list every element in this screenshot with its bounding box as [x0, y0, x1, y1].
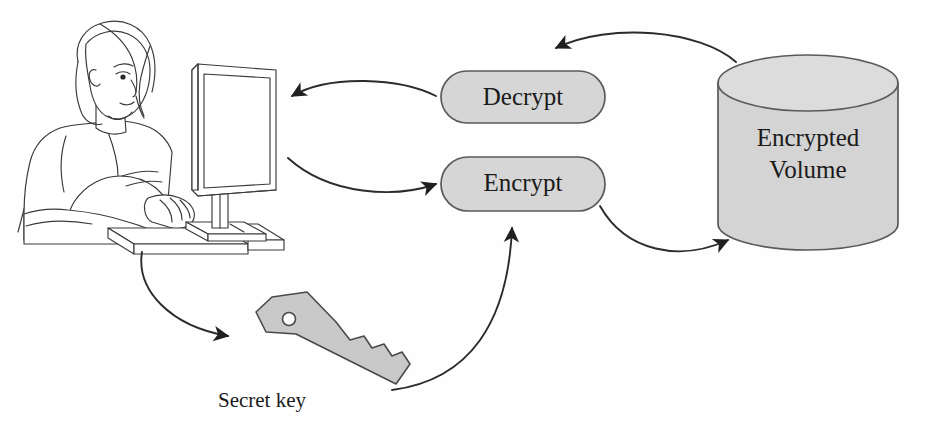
diagram-canvas: Secret key Decrypt Encrypt Encrypted Vol… [0, 0, 940, 448]
arrow-volume-to-decrypt [556, 32, 736, 62]
volume-label-line2: Volume [769, 156, 846, 183]
secret-key-label: Secret key [218, 388, 307, 412]
decrypt-node: Decrypt [441, 71, 605, 123]
secret-key-shape [256, 292, 410, 384]
arrow-decrypt-to-operator [292, 81, 436, 96]
arrow-encrypt-to-volume [600, 206, 728, 251]
arrow-operator-to-encrypt [288, 158, 436, 192]
volume-label-line1: Encrypted [757, 124, 860, 151]
encrypt-node: Encrypt [441, 157, 605, 211]
decrypt-label: Decrypt [483, 83, 564, 110]
person-at-computer [18, 21, 284, 254]
arrow-key-to-encrypt [392, 228, 512, 390]
encryption-diagram: Secret key Decrypt Encrypt Encrypted Vol… [0, 0, 940, 448]
arrow-operator-to-key [141, 252, 228, 336]
encrypted-volume-node: Encrypted Volume [718, 55, 898, 250]
encrypt-label: Encrypt [483, 169, 562, 196]
